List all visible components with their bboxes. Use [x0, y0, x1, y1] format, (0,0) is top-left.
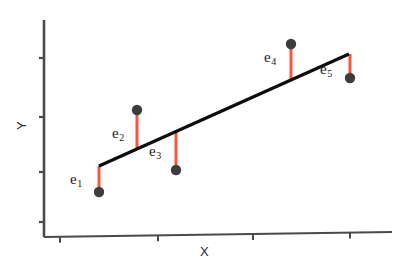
residual-label-base-e3: e — [149, 143, 156, 159]
plot-canvas — [0, 0, 402, 270]
residual-label-base-e2: e — [112, 125, 119, 141]
axes-group — [39, 20, 392, 243]
data-point-e2 — [132, 105, 142, 115]
data-point-e1 — [94, 187, 104, 197]
residual-label-base-e4: e — [264, 49, 271, 65]
residual-label-index-e1: 1 — [77, 178, 82, 189]
residual-label-e1: e1 — [70, 172, 82, 187]
residual-label-index-e4: 4 — [271, 56, 276, 67]
data-point-e3 — [171, 165, 181, 175]
residual-segments-group — [99, 44, 350, 192]
data-point-e5 — [345, 73, 355, 83]
residual-label-index-e3: 3 — [156, 150, 161, 161]
residual-label-e5: e5 — [320, 62, 332, 77]
residual-label-index-e2: 2 — [119, 132, 124, 143]
x-axis-line — [44, 232, 392, 237]
residual-plot-figure: X Y e1e2e3e4e5 — [0, 0, 402, 270]
residual-label-base-e1: e — [70, 171, 77, 187]
data-point-e4 — [286, 39, 296, 49]
residual-label-e3: e3 — [149, 144, 161, 159]
residual-label-index-e5: 5 — [327, 68, 332, 79]
x-axis-label: X — [200, 244, 209, 259]
residual-label-e2: e2 — [112, 126, 124, 141]
data-points-group — [94, 39, 355, 197]
residual-label-base-e5: e — [320, 61, 327, 77]
residual-label-e4: e4 — [264, 50, 276, 65]
y-axis-label: Y — [14, 121, 29, 130]
